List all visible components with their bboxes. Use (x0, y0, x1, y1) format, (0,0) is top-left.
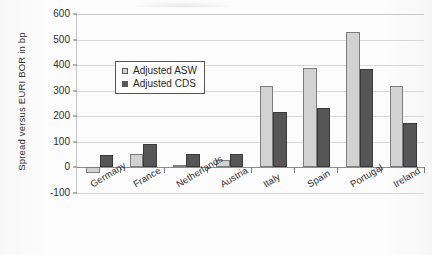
x-tick-mark (164, 167, 165, 173)
bar-portugal-cds (360, 69, 374, 167)
bar-ireland-cds (403, 123, 417, 168)
bar-ireland-asw (390, 86, 404, 167)
legend-swatch-icon (122, 68, 128, 74)
x-tick-mark (120, 167, 121, 173)
legend-item-asw: Adjusted ASW (122, 66, 197, 76)
bar-italy-asw (260, 86, 274, 168)
bar-germany-cds (100, 155, 114, 168)
bar-series-container (77, 14, 424, 193)
scan-artifact (120, 0, 240, 7)
y-tick-label: 100 (53, 137, 70, 147)
y-tick-label: 400 (53, 60, 70, 70)
bar-germany-asw (86, 167, 100, 172)
x-tick-mark (207, 167, 208, 173)
bar-netherlands-cds (186, 154, 200, 167)
legend-label: Adjusted ASW (133, 66, 197, 76)
y-tick-label: 0 (64, 162, 70, 172)
chart-legend: Adjusted ASWAdjusted CDS (115, 61, 205, 94)
bar-austria-asw (216, 160, 230, 168)
y-tick-label: 300 (53, 86, 70, 96)
bar-spain-cds (317, 108, 331, 167)
bar-netherlands-asw (173, 165, 187, 167)
legend-label: Adjusted CDS (133, 79, 196, 89)
bar-france-asw (130, 154, 144, 167)
chart-page: Spread versus EURI BOR in bp 60050040030… (0, 0, 432, 255)
y-tick-label: -100 (50, 188, 70, 198)
legend-item-cds: Adjusted CDS (122, 79, 197, 89)
legend-swatch-icon (122, 81, 128, 87)
x-tick-mark (381, 167, 382, 173)
gridline (77, 193, 424, 194)
y-tick-label: 500 (53, 35, 70, 45)
x-tick-mark (424, 167, 425, 173)
x-tick-mark (337, 167, 338, 173)
bar-spain-asw (303, 68, 317, 167)
y-tick-label: 200 (53, 111, 70, 121)
y-axis-title: Spread versus EURI BOR in bp (16, 7, 27, 197)
x-tick-mark (294, 167, 295, 173)
plot-area: 6005004003002001000-100 (77, 14, 424, 193)
bar-france-cds (143, 144, 157, 167)
bar-austria-cds (230, 154, 244, 167)
bar-portugal-asw (346, 32, 360, 168)
y-tick-label: 600 (53, 9, 70, 19)
bar-italy-cds (273, 112, 287, 167)
x-tick-mark (251, 167, 252, 173)
